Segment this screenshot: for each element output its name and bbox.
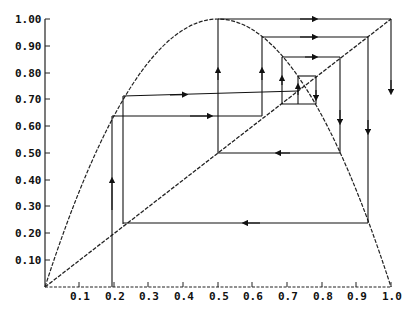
y-tick-0.60: 0.60: [15, 120, 42, 133]
x-tick-0.7: 0.7: [278, 290, 298, 303]
y-tick-0.70: 0.70: [15, 93, 42, 106]
y-tick-0.80: 0.80: [15, 67, 42, 80]
x-tick-1.0: 1.0: [382, 290, 402, 303]
x-tick-0.1: 0.1: [70, 290, 90, 303]
x-tick-0.9: 0.9: [347, 290, 367, 303]
cobweb-trajectory: [112, 19, 391, 287]
x-tick-0.4: 0.4: [174, 290, 194, 303]
y-tick-0.20: 0.20: [15, 227, 42, 240]
x-tick-0.8: 0.8: [313, 290, 333, 303]
x-tick-0.5: 0.5: [209, 290, 229, 303]
x-tick-0.6: 0.6: [243, 290, 263, 303]
y-tick-0.30: 0.30: [15, 200, 42, 213]
y-tick-0.40: 0.40: [15, 174, 42, 187]
x-tick-0.3: 0.3: [139, 290, 159, 303]
x-tick-labels: 0.1 0.2 0.3 0.4 0.5 0.6 0.7 0.8 0.9 1.0: [70, 282, 402, 303]
x-tick-0.2: 0.2: [105, 290, 125, 303]
cobweb-diagram: 1.00 0.90 0.80 0.70 0.60 0.50 0.40 0.30 …: [0, 0, 418, 315]
y-tick-0.10: 0.10: [15, 254, 42, 267]
y-tick-0.50: 0.50: [15, 147, 42, 160]
y-tick-0.90: 0.90: [15, 40, 42, 53]
y-tick-1.00: 1.00: [15, 13, 42, 26]
